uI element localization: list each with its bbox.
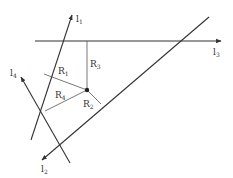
label-l4: l4 [10, 68, 17, 79]
line-l2 [42, 17, 209, 160]
segment-r4 [45, 90, 87, 111]
line-l4 [21, 77, 70, 163]
label-l1: l1 [76, 14, 83, 25]
label-r4: R4 [55, 90, 66, 101]
label-r1: R1 [58, 66, 69, 77]
label-l2: l2 [41, 164, 48, 175]
line-l1 [31, 15, 72, 140]
interior-point [85, 88, 89, 92]
label-r2: R2 [83, 99, 94, 110]
label-r3: R3 [90, 59, 101, 70]
label-l3: l3 [213, 47, 220, 58]
diagram-canvas: l1 l2 l3 l4 R1 R2 R3 R4 [0, 0, 233, 178]
